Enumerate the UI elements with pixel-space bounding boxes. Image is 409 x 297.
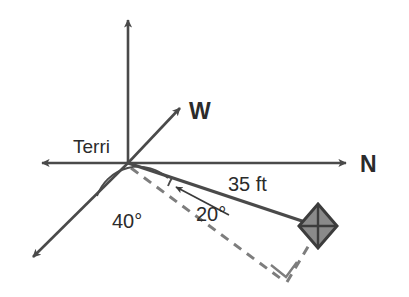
label-angle-20: 20° — [196, 203, 226, 225]
label-terri: Terri — [73, 136, 110, 157]
figure-background — [0, 0, 409, 297]
label-angle-40: 40° — [112, 210, 142, 232]
compass-bearing-diagram: Terri N W 35 ft 40° 20° — [0, 0, 409, 297]
label-west: W — [189, 98, 211, 124]
label-north: N — [360, 151, 377, 177]
label-distance: 35 ft — [228, 173, 267, 195]
figure-root: Terri N W 35 ft 40° 20° — [0, 0, 409, 297]
